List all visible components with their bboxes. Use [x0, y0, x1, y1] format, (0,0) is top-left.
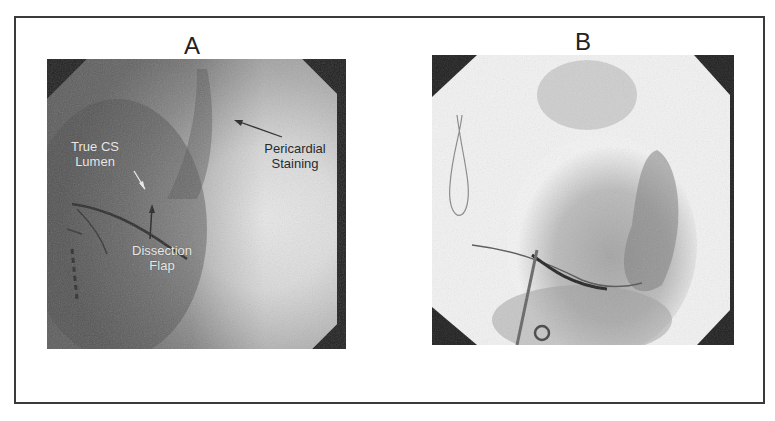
panel-b-fluoroscopy-image — [432, 55, 734, 345]
panel-a-fluoroscopy-image: True CS Lumen Pericardial Staining Disse… — [47, 59, 346, 349]
annotation-dissection-flap: Dissection Flap — [117, 243, 207, 273]
panel-b-label: B — [575, 30, 591, 54]
panel-a-label: A — [184, 34, 200, 58]
annotation-true-cs-lumen: True CS Lumen — [55, 139, 135, 169]
annotation-pericardial-staining: Pericardial Staining — [245, 141, 345, 171]
